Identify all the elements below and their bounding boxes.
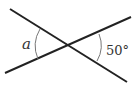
angle-arc-left [35, 29, 40, 59]
angle-diagram: a 50° [0, 0, 138, 88]
angle-label-50: 50° [106, 43, 129, 58]
angle-arc-right [97, 34, 101, 61]
angle-label-a: a [22, 35, 31, 53]
